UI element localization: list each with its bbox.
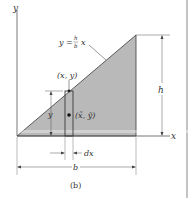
equation-leader (89, 45, 106, 60)
triangle-area (17, 35, 136, 136)
base-label: b (73, 163, 78, 172)
strip-height-arrow-top (50, 91, 53, 95)
centroid-label: (x̃, ỹ) (75, 111, 95, 120)
dx-arrow-left (61, 152, 65, 155)
base-arrow-left (17, 166, 21, 169)
dx-arrow-right (73, 152, 77, 155)
figure-caption: (b) (70, 181, 81, 190)
equation-frac-num: h (74, 35, 78, 41)
dx-label: dx (84, 149, 94, 158)
equation-rhs: x (81, 38, 86, 47)
point-xy-dot (68, 90, 71, 93)
base-arrow-right (132, 166, 136, 169)
centroid-dot (67, 113, 71, 117)
equation-frac-den: b (74, 43, 78, 49)
height-arrow-bottom (161, 132, 164, 136)
strip-height-label: y (47, 110, 53, 119)
height-label: h (158, 85, 164, 95)
height-arrow-top (161, 35, 164, 39)
triangle-area-diagram: y x (x, y) (x̃, ỹ) y h y = h b x dx b (b… (0, 0, 191, 198)
y-axis-label: y (12, 3, 19, 13)
equation-lhs: y = (58, 38, 73, 47)
point-xy-label: (x, y) (57, 71, 77, 80)
x-axis-label: x (171, 131, 176, 141)
